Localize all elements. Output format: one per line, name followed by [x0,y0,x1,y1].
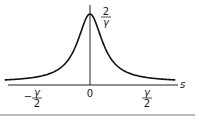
svg-text:2: 2 [103,6,109,17]
svg-text:γ: γ [144,87,151,98]
tick-label-zero: 0 [87,88,93,99]
svg-text:2: 2 [34,98,40,109]
lorentzian-diagram: s 2 γ − γ 2 0 γ 2 [0,0,199,122]
svg-text:γ: γ [103,17,110,28]
tick-label-neg-half-gamma: − γ 2 [24,87,42,109]
x-axis-label: s [180,79,185,90]
svg-text:2: 2 [144,98,150,109]
peak-label: 2 γ [101,6,111,28]
tick-label-pos-half-gamma: γ 2 [142,87,152,109]
svg-text:γ: γ [34,87,41,98]
svg-text:−: − [24,91,32,102]
